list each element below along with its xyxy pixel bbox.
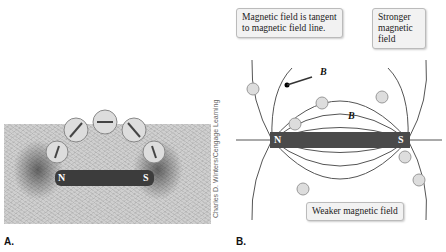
magnet-s-label: S bbox=[143, 172, 149, 183]
panel-a-label: A. bbox=[4, 236, 14, 247]
bar-magnet bbox=[55, 170, 154, 186]
callout-weaker: Weaker magnetic field bbox=[306, 202, 404, 221]
callout-stronger: Stronger magnetic field bbox=[372, 8, 426, 49]
callout-tangent: Magnetic field is tangent to magnetic fi… bbox=[236, 8, 343, 38]
compass-group bbox=[46, 110, 165, 163]
magnet-n-label: N bbox=[58, 172, 65, 183]
photo-credit: Charles D. Winters/Cengage Learning bbox=[212, 100, 219, 218]
magnet-s-label: S bbox=[398, 134, 404, 145]
panel-b: Magnetic field is tangent to magnetic fi… bbox=[220, 0, 446, 252]
b-vector-label-mid: B bbox=[348, 110, 355, 121]
magnet-n-label: N bbox=[274, 134, 281, 145]
b-vector-label-top: B bbox=[320, 66, 327, 77]
panel-b-label: B. bbox=[236, 236, 246, 247]
panel-a: N S Charles D. Winters/Cengage Learning … bbox=[0, 0, 220, 252]
panel-a-graphics bbox=[0, 0, 220, 252]
bar-magnet bbox=[270, 132, 410, 148]
